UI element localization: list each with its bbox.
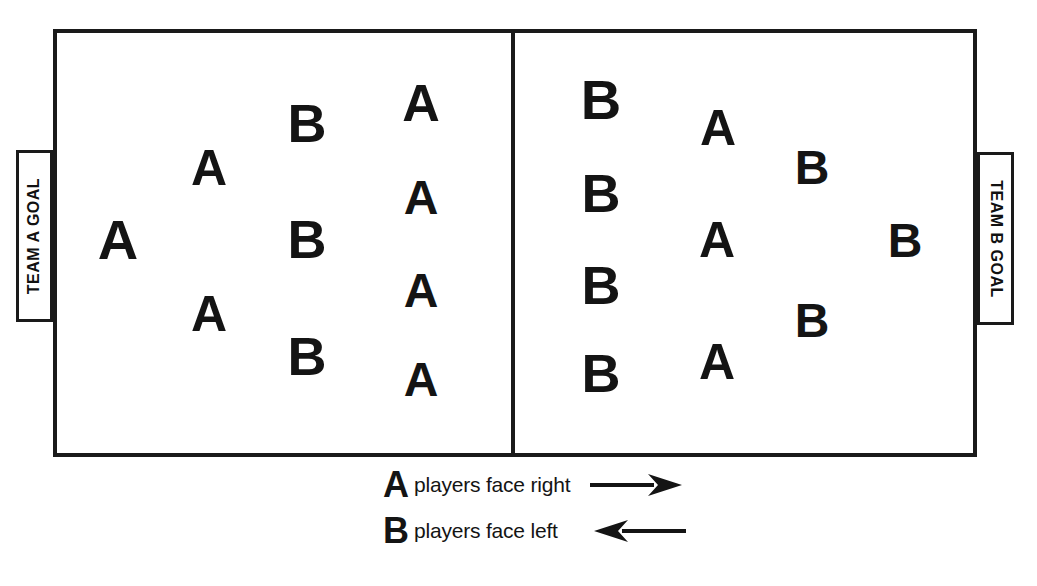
halfway-line bbox=[511, 31, 515, 455]
player-marker-b: B bbox=[582, 166, 621, 220]
player-marker-a: A bbox=[700, 103, 736, 153]
legend-text-a: players face right bbox=[414, 473, 570, 497]
playing-field bbox=[53, 29, 977, 457]
player-marker-b: B bbox=[795, 144, 830, 192]
team-b-goal-box: TEAM B GOAL bbox=[977, 152, 1014, 325]
legend-row-a: A players face right bbox=[0, 462, 1037, 508]
arrow-left-icon bbox=[592, 518, 688, 544]
legend-row-b: B players face left bbox=[0, 508, 1037, 554]
player-marker-b: B bbox=[288, 96, 327, 150]
team-a-goal-box: TEAM A GOAL bbox=[16, 150, 53, 322]
player-marker-a: A bbox=[699, 215, 735, 265]
player-marker-b: B bbox=[288, 329, 327, 383]
player-marker-a: A bbox=[404, 356, 439, 404]
player-marker-a: A bbox=[191, 289, 227, 339]
player-marker-b: B bbox=[888, 217, 923, 265]
player-marker-a: A bbox=[191, 143, 227, 193]
team-b-goal-label: TEAM B GOAL bbox=[987, 180, 1005, 298]
player-marker-b: B bbox=[582, 346, 621, 400]
player-marker-a: A bbox=[404, 267, 439, 315]
player-marker-a: A bbox=[402, 77, 440, 129]
player-marker-a: A bbox=[98, 212, 138, 268]
legend: A players face right B players face left bbox=[0, 462, 1037, 554]
legend-letter-b: B bbox=[383, 513, 409, 549]
player-marker-b: B bbox=[582, 258, 621, 312]
player-marker-a: A bbox=[699, 337, 735, 387]
legend-letter-a: A bbox=[383, 467, 409, 503]
arrow-right-icon bbox=[588, 472, 684, 498]
team-a-goal-label: TEAM A GOAL bbox=[26, 178, 44, 294]
player-marker-b: B bbox=[581, 72, 621, 128]
player-marker-b: B bbox=[288, 212, 327, 266]
player-marker-b: B bbox=[795, 297, 830, 345]
diagram-canvas: TEAM A GOAL TEAM B GOAL AAABBBAAAA BBBBA… bbox=[0, 0, 1037, 586]
player-marker-a: A bbox=[404, 174, 439, 222]
legend-text-b: players face left bbox=[414, 519, 558, 543]
